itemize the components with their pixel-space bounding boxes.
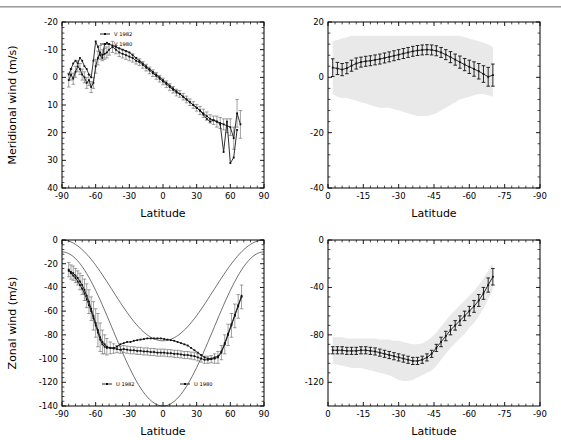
chart-zonal-model: 0-15-30-45-60-75-90-120-80-400Latitude: [284, 232, 556, 438]
y-tick-label: 0: [53, 72, 58, 82]
y-tick-label: -100: [39, 354, 58, 364]
y-tick-label: -20: [44, 259, 58, 269]
legend-label: V 1982: [114, 31, 132, 37]
x-tick-label: -30: [122, 409, 136, 419]
y-axis: -20-10010203040: [44, 17, 264, 193]
y-tick-label: 20: [47, 128, 58, 138]
x-tick-label: 0: [160, 409, 165, 419]
reference-curve-upper-cos2: [62, 252, 264, 406]
panel-zonal-observed: -90-60-3003060900-20-40-60-80-100-120-14…: [0, 232, 278, 438]
y-axis: 0-20-40-60-80-100-120-140: [39, 235, 264, 411]
x-tick-label: -90: [533, 409, 547, 419]
legend: U 1982U 1980: [102, 381, 213, 387]
x-axis-title: Latitude: [411, 425, 457, 438]
plot-frame: [62, 240, 264, 406]
y-tick-label: -20: [310, 128, 324, 138]
reference-curve-lower-cos2: [62, 240, 264, 341]
y-tick-label: 30: [47, 155, 58, 165]
y-tick-label: 40: [47, 183, 58, 193]
panel-meridional-model: 0-15-30-45-60-75-90-40-20020Latitude: [284, 14, 556, 220]
x-tick-label: 90: [259, 191, 270, 201]
x-tick-label: -60: [89, 191, 103, 201]
error-bars: [67, 263, 243, 364]
y-tick-label: 0: [319, 235, 324, 245]
x-tick-label: 0: [325, 409, 330, 419]
y-axis-title: Meridional wind (m/s): [6, 45, 19, 164]
x-tick-label: -60: [462, 409, 476, 419]
x-axis-title: Latitude: [140, 207, 186, 220]
x-tick-label: -30: [392, 191, 406, 201]
x-axis: 0-15-30-45-60-75-90: [325, 240, 547, 419]
series-v-1980: [68, 40, 238, 164]
x-axis-title: Latitude: [411, 207, 457, 220]
x-tick-label: 0: [325, 191, 330, 201]
y-tick-label: -80: [44, 330, 58, 340]
y-tick-label: -10: [44, 45, 58, 55]
y-axis-title: Zonal wind (m/s): [6, 277, 19, 370]
x-tick-label: -30: [122, 191, 136, 201]
x-tick-label: -60: [462, 191, 476, 201]
data-line: [69, 270, 242, 360]
series-u-1982: [67, 263, 243, 364]
data-line: [69, 41, 237, 163]
y-tick-label: 10: [47, 100, 58, 110]
y-tick-label: -80: [310, 330, 324, 340]
y-tick-label: -40: [44, 282, 58, 292]
y-tick-label: -120: [305, 377, 324, 387]
y-tick-label: -40: [310, 282, 324, 292]
chart-meridional-model: 0-15-30-45-60-75-90-40-20020Latitude: [284, 14, 556, 220]
x-tick-label: -45: [427, 191, 441, 201]
y-tick-label: -140: [39, 401, 58, 411]
x-tick-label: -90: [533, 191, 547, 201]
x-tick-label: -30: [392, 409, 406, 419]
y-tick-label: -60: [44, 306, 58, 316]
x-tick-label: -75: [498, 409, 512, 419]
x-tick-label: 60: [225, 191, 236, 201]
x-axis-title: Latitude: [140, 425, 186, 438]
header-rule: [0, 6, 561, 8]
legend-label: U 1982: [116, 381, 135, 387]
chart-zonal-observed: -90-60-3003060900-20-40-60-80-100-120-14…: [0, 232, 278, 438]
plot-frame: [62, 22, 264, 188]
legend-label: V 1980: [114, 41, 132, 47]
x-tick-label: 60: [225, 409, 236, 419]
error-bars: [67, 41, 242, 149]
x-tick-label: -15: [356, 191, 370, 201]
x-axis: -90-60-300306090: [55, 240, 269, 419]
plot-frame: [328, 240, 540, 406]
panel-zonal-model: 0-15-30-45-60-75-90-120-80-400Latitude: [284, 232, 556, 438]
y-tick-label: 20: [313, 17, 324, 27]
y-tick-label: 0: [53, 235, 58, 245]
x-tick-label: -75: [498, 191, 512, 201]
x-tick-label: -60: [89, 409, 103, 419]
x-tick-label: -15: [356, 409, 370, 419]
data-line: [69, 271, 242, 359]
data-markers: [68, 269, 243, 361]
series-u-1980: [68, 270, 243, 360]
series-v-1982: [67, 41, 242, 149]
legend: V 1982V 1980: [100, 31, 132, 47]
y-tick-label: -120: [39, 377, 58, 387]
panel-meridional-observed: -90-60-300306090-20-10010203040LatitudeM…: [0, 14, 278, 220]
data-markers: [68, 270, 243, 360]
figure-canvas: -90-60-300306090-20-10010203040LatitudeM…: [0, 0, 561, 440]
x-tick-label: 90: [259, 409, 270, 419]
x-tick-label: 30: [191, 191, 202, 201]
chart-meridional-observed: -90-60-300306090-20-10010203040LatitudeM…: [0, 14, 278, 220]
x-tick-label: -45: [427, 409, 441, 419]
legend-label: U 1980: [194, 381, 213, 387]
x-tick-label: 0: [160, 191, 165, 201]
x-tick-label: 30: [191, 409, 202, 419]
y-tick-label: 0: [319, 72, 324, 82]
y-tick-label: -40: [310, 183, 324, 193]
y-tick-label: -20: [44, 17, 58, 27]
